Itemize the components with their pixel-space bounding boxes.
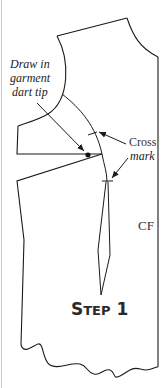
- label-draw-in: Draw in: [10, 57, 50, 71]
- style-line-curve: [62, 94, 107, 182]
- step-title: STEP 1: [71, 299, 128, 319]
- label-garment: garment: [10, 71, 50, 85]
- label-mark: mark: [130, 149, 155, 163]
- label-cross: Cross: [129, 135, 156, 149]
- step-title-initial: S: [71, 299, 83, 319]
- cross-marks: [88, 132, 113, 181]
- pattern-diagram: Draw in garment dart tip Cross mark CF S…: [0, 0, 167, 388]
- dart-tip-dot: [85, 153, 90, 158]
- label-dart-tip: dart tip: [12, 85, 48, 99]
- waist-dart: [98, 182, 110, 295]
- label-center-front: CF: [138, 219, 154, 233]
- step-title-rest: TEP: [83, 303, 110, 318]
- step-title-number: 1: [116, 299, 128, 319]
